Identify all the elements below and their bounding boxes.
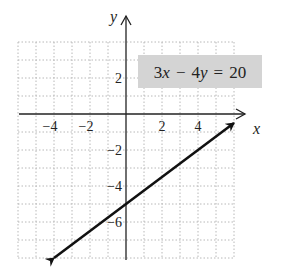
y-tick-label: −4: [107, 179, 122, 194]
equation-label: 3x−4y=20: [138, 55, 262, 88]
x-axis-label: x: [252, 120, 260, 137]
x-tick-label: −2: [79, 119, 94, 134]
y-axis-label: y: [108, 8, 118, 26]
y-tick-labels: 2−2−4−6: [107, 71, 122, 230]
coordinate-plane: 3x−4y=20 x y −4−224 2−2−4−6: [0, 0, 282, 273]
x-tick-label: 4: [195, 119, 202, 134]
y-tick-label: 2: [115, 71, 122, 86]
equation-line: [54, 123, 234, 258]
y-tick-label: −2: [107, 143, 122, 158]
x-tick-labels: −4−224: [43, 119, 202, 134]
x-tick-label: 2: [159, 119, 166, 134]
equation-text: 3x−4y=20: [154, 63, 246, 82]
x-tick-label: −4: [43, 119, 58, 134]
